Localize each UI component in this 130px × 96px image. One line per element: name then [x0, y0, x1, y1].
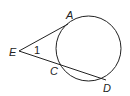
angle-label-1: 1 — [34, 44, 40, 56]
secant-segment-ed — [19, 51, 106, 80]
point-label-d: D — [103, 82, 111, 94]
geometry-diagram: A E C D 1 — [0, 0, 130, 96]
point-label-c: C — [50, 65, 58, 77]
tangent-segment-ea — [19, 24, 68, 51]
diagram-canvas: A E C D 1 — [0, 0, 130, 96]
point-label-a: A — [65, 9, 73, 21]
point-label-e: E — [9, 46, 17, 58]
